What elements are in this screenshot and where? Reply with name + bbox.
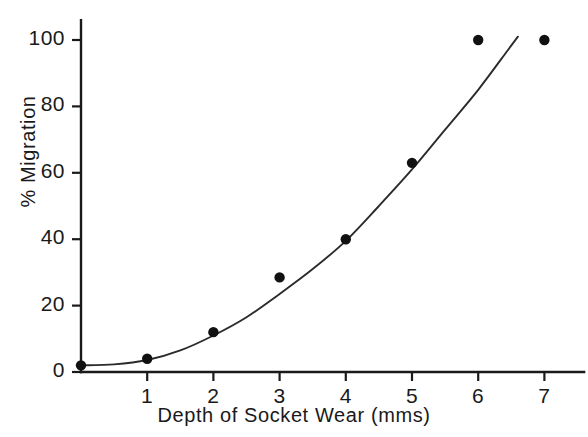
plot-area [0,0,588,437]
y-tick-label: 100 [0,26,65,50]
y-tick-label: 20 [0,292,65,316]
y-axis-label: % Migration [17,95,39,207]
x-axis-label: Depth of Socket Wear (mms) [0,404,588,427]
chart-figure: 020406080100 1234567 Depth of Socket Wea… [0,0,588,437]
y-tick-label: 0 [0,358,65,382]
y-axis-label-container: % Migration [17,62,40,242]
